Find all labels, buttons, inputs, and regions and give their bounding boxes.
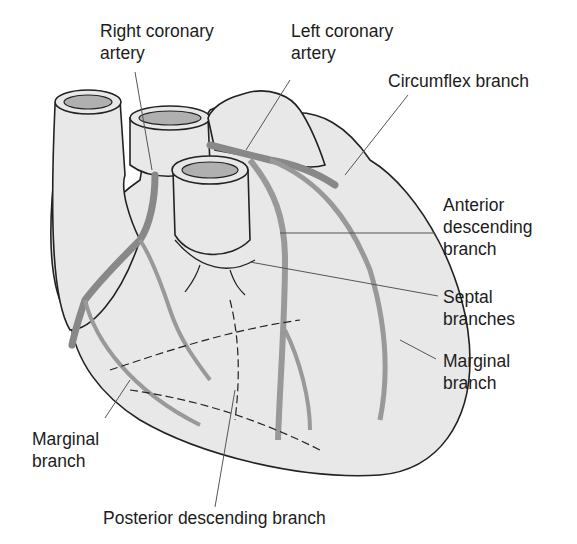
- label-circumflex-branch: Circumflex branch: [388, 70, 529, 92]
- heart-diagram: Right coronary artery Left coronary arte…: [0, 0, 577, 544]
- label-posterior-descending-branch: Posterior descending branch: [103, 507, 326, 529]
- label-anterior-descending-branch: Anterior descending branch: [443, 194, 533, 260]
- label-right-coronary-artery: Right coronary artery: [100, 20, 214, 64]
- label-septal-branches: Septal branches: [443, 286, 515, 330]
- label-left-coronary-artery: Left coronary artery: [291, 20, 393, 64]
- label-marginal-branch-right: Marginal branch: [443, 350, 510, 394]
- label-marginal-branch-left: Marginal branch: [32, 428, 99, 472]
